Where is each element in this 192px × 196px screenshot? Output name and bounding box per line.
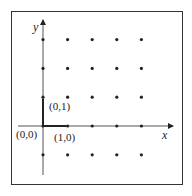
lattice-point: [91, 67, 94, 70]
lattice-point: [91, 96, 94, 99]
lattice-point: [115, 67, 118, 70]
label-0-1: (0,1): [49, 100, 70, 112]
lattice-point: [91, 124, 94, 127]
lattice-point: [115, 124, 118, 127]
label-1-0: (1,0): [54, 131, 75, 143]
x-axis-label: x: [162, 128, 167, 143]
lattice-point: [66, 153, 69, 156]
lattice-point: [140, 96, 143, 99]
lattice-point: [91, 153, 94, 156]
lattice-point: [140, 38, 143, 41]
lattice-plot: [0, 0, 192, 196]
lattice-point: [66, 124, 69, 127]
lattice-point: [140, 153, 143, 156]
lattice-point: [66, 67, 69, 70]
lattice-point: [140, 124, 143, 127]
lattice-point: [41, 124, 44, 127]
lattice-point: [115, 38, 118, 41]
lattice-point: [66, 38, 69, 41]
lattice-point: [140, 67, 143, 70]
lattice-point: [91, 38, 94, 41]
lattice-point: [66, 96, 69, 99]
lattice-point: [115, 153, 118, 156]
label-origin: (0,0): [16, 128, 37, 140]
lattice-point: [115, 96, 118, 99]
lattice-point: [41, 153, 44, 156]
lattice-point: [41, 38, 44, 41]
lattice-point: [41, 67, 44, 70]
lattice-point: [41, 96, 44, 99]
y-axis-label: y: [33, 20, 38, 35]
